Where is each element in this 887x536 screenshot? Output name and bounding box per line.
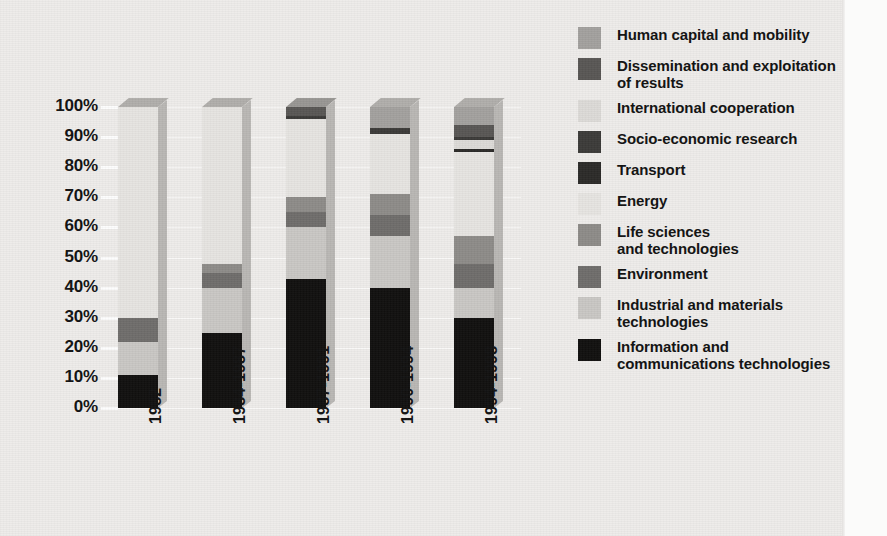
legend-swatch — [578, 100, 601, 122]
legend-item: Socio-economic research — [578, 130, 878, 153]
legend-swatch — [578, 297, 601, 319]
bar-segment — [286, 227, 326, 278]
y-axis-tick-label: 100% — [24, 96, 98, 116]
y-axis-tick-label: 30% — [24, 307, 98, 327]
y-axis-tick-label: 50% — [24, 247, 98, 267]
legend-swatch — [578, 193, 601, 215]
bar-column — [118, 107, 158, 408]
bar-segment — [454, 149, 494, 152]
bar-segment — [454, 152, 494, 236]
page-right-margin — [845, 0, 887, 536]
bar-segment — [286, 119, 326, 197]
bar-segment — [370, 194, 410, 215]
y-axis-tick-label: 80% — [24, 156, 98, 176]
legend-swatch — [578, 266, 601, 288]
bar-segment — [118, 318, 158, 342]
legend-swatch — [578, 224, 601, 246]
legend-label: Life sciences and technologies — [617, 223, 739, 257]
legend-swatch — [578, 339, 601, 361]
y-axis-tick — [101, 136, 118, 139]
y-axis-tick — [101, 377, 118, 380]
bar-segment — [370, 215, 410, 236]
legend-item: Human capital and mobility — [578, 26, 878, 49]
legend-label: Industrial and materials technologies — [617, 296, 783, 330]
y-axis-tick-label: 90% — [24, 126, 98, 146]
x-axis-tick-label: 1984-1987 — [231, 346, 249, 424]
legend-item: Industrial and materials technologies — [578, 296, 878, 330]
y-axis-tick — [101, 287, 118, 290]
y-axis-tick-label: 0% — [24, 397, 98, 417]
y-axis-tick — [101, 317, 118, 320]
legend-swatch — [578, 162, 601, 184]
x-axis-tick-label: 1994-1998 — [483, 346, 501, 424]
bar-segment — [286, 116, 326, 119]
bar-segment — [454, 137, 494, 140]
bar-segment — [118, 107, 158, 318]
bar-segment — [370, 107, 410, 128]
legend-item: Energy — [578, 192, 878, 215]
bar-segment — [286, 212, 326, 227]
bar-segment — [118, 342, 158, 375]
x-axis-tick-label: 1982 — [147, 388, 165, 424]
bar-segment — [454, 288, 494, 318]
y-axis-tick — [101, 226, 118, 229]
chart-legend: Human capital and mobilityDissemination … — [578, 26, 878, 380]
bar-segment — [202, 273, 242, 288]
legend-item: Dissemination and exploitation of result… — [578, 57, 878, 91]
bar-segment — [286, 197, 326, 212]
legend-label: International cooperation — [617, 99, 795, 116]
y-axis-tick — [101, 347, 118, 350]
y-axis-tick — [101, 407, 118, 410]
bar-side-face — [158, 100, 167, 408]
legend-label: Environment — [617, 265, 708, 282]
bar-segment — [202, 107, 242, 264]
bar-segment — [454, 107, 494, 125]
y-axis-tick-label: 20% — [24, 337, 98, 357]
bar-segment — [454, 236, 494, 263]
legend-swatch — [578, 58, 601, 80]
bar-segment — [454, 125, 494, 137]
x-axis-tick-label: 1990-1994 — [399, 346, 417, 424]
y-axis-tick — [101, 106, 118, 109]
legend-item: International cooperation — [578, 99, 878, 122]
y-axis-tick — [101, 257, 118, 260]
legend-swatch — [578, 131, 601, 153]
legend-label: Energy — [617, 192, 667, 209]
bar-segment — [202, 264, 242, 273]
legend-item: Information and communications technolog… — [578, 338, 878, 372]
bar-segment — [370, 134, 410, 194]
legend-label: Human capital and mobility — [617, 26, 809, 43]
y-axis-tick-label: 10% — [24, 367, 98, 387]
bar-segment — [286, 107, 326, 116]
bar-segment — [454, 264, 494, 288]
legend-item: Life sciences and technologies — [578, 223, 878, 257]
legend-label: Dissemination and exploitation of result… — [617, 57, 836, 91]
legend-item: Transport — [578, 161, 878, 184]
chart-plot-area: 100%90%80%70%60%50%40%30%20%10%0% 198219… — [0, 0, 560, 536]
bar-segment — [202, 288, 242, 333]
y-axis-tick — [101, 196, 118, 199]
scanned-page-background: 100%90%80%70%60%50%40%30%20%10%0% 198219… — [0, 0, 887, 536]
bar-segment — [370, 236, 410, 287]
y-axis-labels: 100%90%80%70%60%50%40%30%20%10%0% — [20, 0, 98, 536]
y-axis-tick-label: 60% — [24, 216, 98, 236]
x-axis-tick-label: 1987-1991 — [315, 346, 333, 424]
legend-item: Environment — [578, 265, 878, 288]
legend-label: Information and communications technolog… — [617, 338, 830, 372]
bar-segment — [454, 140, 494, 149]
y-axis-tick-label: 40% — [24, 277, 98, 297]
bar-segment — [370, 128, 410, 134]
legend-swatch — [578, 27, 601, 49]
y-axis-tick-label: 70% — [24, 186, 98, 206]
legend-label: Socio-economic research — [617, 130, 797, 147]
legend-label: Transport — [617, 161, 685, 178]
y-axis-tick — [101, 166, 118, 169]
